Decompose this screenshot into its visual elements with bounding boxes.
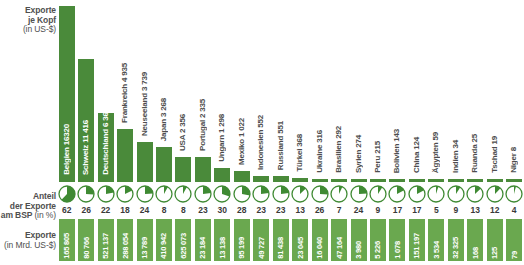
- exports-value-box: 3 534: [428, 219, 444, 261]
- share-pie-icon: [194, 185, 212, 203]
- bar-label: Türkei 368: [292, 134, 308, 176]
- bar-label: Ungarn 1 298: [214, 114, 230, 166]
- exports-cell: 13 789: [135, 219, 154, 261]
- bar-label: Indien 34: [448, 140, 464, 177]
- exports-cell: 151 197: [407, 219, 426, 261]
- share-percent-value: 24: [349, 205, 368, 217]
- exports-cell: 288 054: [115, 219, 134, 261]
- pie-cell: [154, 183, 173, 205]
- share-percent-value: 18: [115, 205, 134, 217]
- bar-cell: USA 2 356: [174, 0, 193, 182]
- per-capita-unit: (in US-$): [0, 25, 56, 35]
- exports-value-box: 1 078: [389, 219, 405, 261]
- pie-cell: [232, 183, 251, 205]
- bar-label: Brasilien 292: [331, 126, 347, 177]
- per-capita-bar: Ukraine 316: [312, 179, 328, 182]
- exports-cell: 47 164: [329, 219, 348, 261]
- share-percent-value: 23: [193, 205, 212, 217]
- share-percent-value: 23: [252, 205, 271, 217]
- per-capita-bars: Belgien 16320Schweiz 11 416Deutschland 6…: [57, 0, 524, 182]
- bar-label: Belgien 16320: [59, 124, 75, 179]
- exports-value-box: 47 164: [331, 219, 347, 261]
- share-pie-icon: [369, 185, 387, 203]
- per-capita-bar: Russland 551: [273, 176, 289, 182]
- pie-cell: [174, 183, 193, 205]
- share-pie-icon: [213, 185, 231, 203]
- exports-cell: 168: [466, 219, 485, 261]
- share-percent-value: 8: [154, 205, 173, 217]
- bar-cell: Neuseeland 3 739: [135, 0, 154, 182]
- per-capita-axis-label: Exporte je Kopf (in US-$): [0, 6, 56, 35]
- per-capita-bar: Belgien 16320: [59, 6, 75, 182]
- share-pie-icon: [116, 185, 134, 203]
- per-capita-bar: Ägypten 59: [428, 179, 444, 182]
- bar-label: Japan 3 268: [156, 98, 172, 145]
- share-pie-icon: [97, 185, 115, 203]
- exports-cell: 80 766: [76, 219, 95, 261]
- bar-cell: Ukraine 316: [310, 0, 329, 182]
- bar-label: Portugal 2 335: [195, 99, 211, 155]
- bar-label: Indonesien 552: [253, 115, 269, 174]
- bar-label: Schweiz 11 416: [78, 120, 94, 179]
- share-pie-icon: [272, 185, 290, 203]
- bar-cell: Frankreich 4 935: [115, 0, 134, 182]
- exports-value-box: 13 789: [137, 219, 153, 261]
- share-percent-value: 24: [135, 205, 154, 217]
- pie-cell: [329, 183, 348, 205]
- exports-value-box: 125: [487, 219, 503, 261]
- pie-cell: [290, 183, 309, 205]
- per-capita-bar: China 124: [409, 179, 425, 182]
- bar-cell: Schweiz 11 416: [76, 0, 95, 182]
- per-capita-bar: Bolivien 143: [389, 179, 405, 182]
- exports-value: 13 138: [218, 237, 227, 259]
- pie-cell: [446, 183, 465, 205]
- per-capita-bar: Deutschland 6 362: [98, 113, 114, 182]
- per-capita-bar: Frankreich 4 935: [117, 129, 133, 182]
- bar-cell: Türkei 368: [290, 0, 309, 182]
- exports-value: 625 073: [179, 233, 188, 259]
- share-pies: [57, 183, 524, 205]
- share-pie-icon: [291, 185, 309, 203]
- infographic-chart: Exporte je Kopf (in US-$) Anteil der Exp…: [0, 0, 524, 265]
- pie-cell: [193, 183, 212, 205]
- share-unit: (in %): [34, 210, 56, 220]
- share-percent-value: 30: [213, 205, 232, 217]
- share-title-line3: am BSP (in %): [0, 211, 56, 221]
- exports-value-box: 168: [467, 219, 483, 261]
- exports-value: 16 040: [315, 237, 324, 259]
- bar-cell: Bolivien 143: [388, 0, 407, 182]
- share-pie-icon: [350, 185, 368, 203]
- per-capita-bar: Tschad 19: [487, 179, 503, 182]
- exports-value: 151 197: [412, 233, 421, 259]
- exports-value-box: 13 138: [214, 219, 230, 261]
- per-capita-bar: Indien 34: [448, 179, 464, 182]
- exports-cell: 32 325: [446, 219, 465, 261]
- share-pie-icon: [486, 185, 504, 203]
- exports-axis-label: Exporte (in Mrd. US-$): [0, 231, 56, 250]
- exports-value: 23 045: [296, 237, 305, 259]
- per-capita-bar: Schweiz 11 416: [78, 59, 94, 182]
- exports-value: 79: [510, 251, 519, 259]
- share-percent-value: 22: [96, 205, 115, 217]
- exports-value: 168: [471, 247, 480, 259]
- share-pie-icon: [155, 185, 173, 203]
- exports-cell: 79: [504, 219, 523, 261]
- pie-cell: [485, 183, 504, 205]
- bar-cell: Ruanda 25: [466, 0, 485, 182]
- bar-cell: Portugal 2 335: [193, 0, 212, 182]
- exports-value: 3 980: [354, 241, 363, 259]
- per-capita-bar: Türkei 368: [292, 178, 308, 182]
- exports-value-box: 5 226: [370, 219, 386, 261]
- exports-value: 521 137: [101, 233, 110, 259]
- exports-cell: 81 438: [271, 219, 290, 261]
- share-pie-icon: [233, 185, 251, 203]
- bar-label: Syrien 274: [351, 135, 367, 177]
- exports-value-box: 23 045: [292, 219, 308, 261]
- bar-label: Niger 8: [506, 147, 522, 177]
- exports-cell: 521 137: [96, 219, 115, 261]
- exports-unit: (in Mrd. US-$): [0, 241, 56, 251]
- total-exports-boxes: 165 80580 766521 137288 05413 789410 942…: [57, 219, 524, 265]
- pie-cell: [349, 183, 368, 205]
- bar-label: Ruanda 25: [467, 134, 483, 177]
- share-pie-icon: [447, 185, 465, 203]
